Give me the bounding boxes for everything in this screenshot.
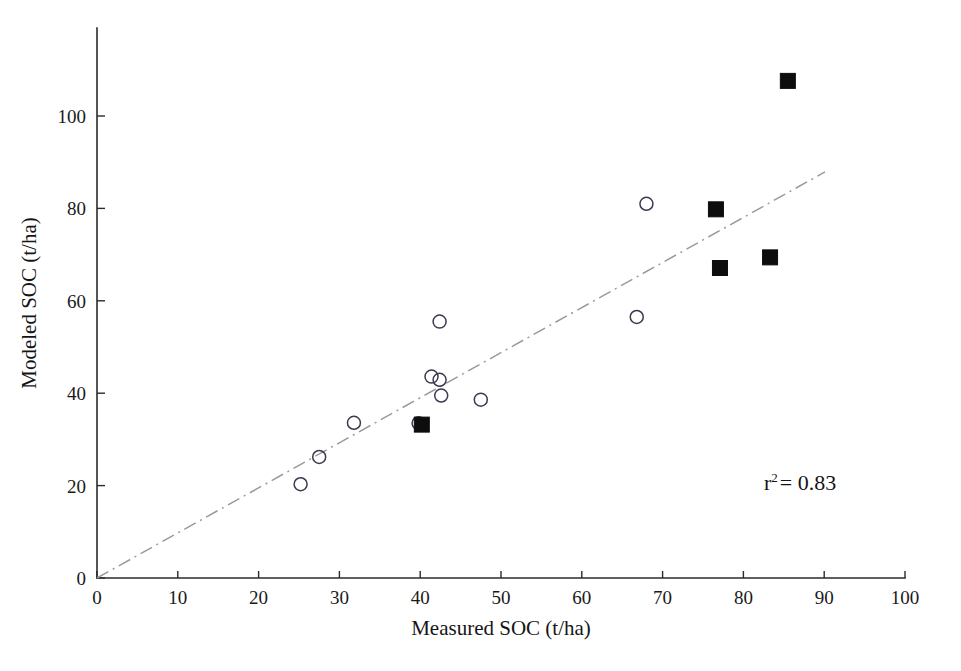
data-point-open-circle bbox=[640, 197, 653, 210]
x-tick-label: 70 bbox=[653, 587, 672, 608]
data-point-filled-square bbox=[414, 417, 429, 432]
x-tick-label: 90 bbox=[815, 587, 834, 608]
y-axis-title: Modeled SOC (t/ha) bbox=[17, 217, 41, 388]
scatter-plot-figure: 020406080100 0102030405060708090100 Meas… bbox=[0, 0, 961, 671]
data-point-filled-square bbox=[712, 260, 727, 275]
data-point-open-circle bbox=[425, 370, 438, 383]
data-point-filled-square bbox=[763, 250, 778, 265]
data-point-open-circle bbox=[435, 389, 448, 402]
trend-line bbox=[97, 172, 825, 578]
x-tick-label: 20 bbox=[249, 587, 268, 608]
x-tick-label: 100 bbox=[891, 587, 920, 608]
data-point-filled-square bbox=[780, 73, 795, 88]
r-squared-annotation: r2= 0.83 bbox=[764, 470, 836, 495]
r-squared-exponent: 2 bbox=[771, 470, 778, 485]
x-tick-label: 30 bbox=[330, 587, 349, 608]
y-tick-label: 20 bbox=[67, 476, 86, 497]
x-tick-label: 80 bbox=[734, 587, 753, 608]
y-tick-label: 80 bbox=[67, 198, 86, 219]
x-tick-label: 60 bbox=[572, 587, 591, 608]
data-point-open-circle bbox=[313, 450, 326, 463]
series-open-circles bbox=[294, 197, 653, 490]
x-axis-title: Measured SOC (t/ha) bbox=[411, 616, 591, 640]
series-filled-squares bbox=[414, 73, 795, 432]
data-point-open-circle bbox=[630, 310, 643, 323]
y-tick-label: 0 bbox=[77, 568, 87, 589]
plot-canvas: 020406080100 0102030405060708090100 Meas… bbox=[0, 0, 961, 671]
data-point-open-circle bbox=[433, 373, 446, 386]
data-point-open-circle bbox=[347, 416, 360, 429]
x-tick-label: 50 bbox=[492, 587, 511, 608]
x-axis-ticks: 0102030405060708090100 bbox=[92, 571, 919, 608]
data-point-open-circle bbox=[294, 478, 307, 491]
data-point-open-circle bbox=[474, 393, 487, 406]
x-tick-label: 10 bbox=[168, 587, 187, 608]
y-tick-label: 40 bbox=[67, 383, 86, 404]
x-tick-label: 0 bbox=[92, 587, 102, 608]
y-tick-label: 60 bbox=[67, 291, 86, 312]
y-tick-label: 100 bbox=[58, 106, 87, 127]
y-axis-ticks: 020406080100 bbox=[58, 106, 106, 589]
data-point-filled-square bbox=[708, 202, 723, 217]
x-tick-label: 40 bbox=[411, 587, 430, 608]
data-point-open-circle bbox=[433, 315, 446, 328]
r-squared-value: = 0.83 bbox=[780, 470, 836, 495]
